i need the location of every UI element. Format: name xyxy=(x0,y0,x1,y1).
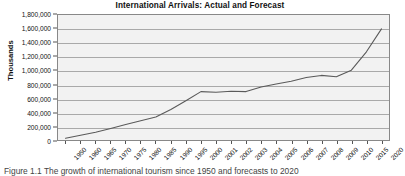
x-tick-mark xyxy=(80,141,81,144)
y-tick-label: 1,800,000 xyxy=(22,11,51,18)
x-tick-mark xyxy=(95,141,96,144)
x-tick-mark xyxy=(140,141,141,144)
y-tick-label: 1,200,000 xyxy=(22,53,51,60)
x-tick-label: 1950 xyxy=(72,146,87,161)
x-tick-mark xyxy=(322,141,323,144)
x-tick-label: 2005 xyxy=(284,146,299,161)
y-tick-label: 1,600,000 xyxy=(22,25,51,32)
x-tick-mark xyxy=(186,141,187,144)
y-axis-tick-labels: 1,800,0001,600,0001,400,0001,200,0001,00… xyxy=(0,0,57,174)
x-tick-label: 1965 xyxy=(102,146,117,161)
y-tick-label: 400,000 xyxy=(27,109,51,116)
x-tick-label: 2020 xyxy=(390,146,405,161)
x-tick-label: 1970 xyxy=(117,146,132,161)
y-tick-label: 800,000 xyxy=(27,81,51,88)
x-tick-mark xyxy=(276,141,277,144)
x-tick-label: 1975 xyxy=(132,146,147,161)
x-tick-mark xyxy=(201,141,202,144)
x-tick-mark xyxy=(352,141,353,144)
figure-caption: Figure 1.1 The growth of international t… xyxy=(4,166,396,176)
plot-area xyxy=(57,14,390,141)
x-tick-mark xyxy=(337,141,338,144)
x-tick-label: 1985 xyxy=(163,146,178,161)
x-tick-mark xyxy=(65,141,66,144)
x-tick-mark xyxy=(246,141,247,144)
x-tick-label: 2001 xyxy=(223,146,238,161)
x-tick-label: 2008 xyxy=(329,146,344,161)
x-tick-label: 2004 xyxy=(269,146,284,161)
y-tick-label: 1,400,000 xyxy=(22,39,51,46)
x-tick-label: 2003 xyxy=(254,146,269,161)
x-tick-mark xyxy=(216,141,217,144)
x-tick-mark xyxy=(125,141,126,144)
x-tick-label: 1995 xyxy=(193,146,208,161)
x-tick-mark xyxy=(367,141,368,144)
y-tick-label: 600,000 xyxy=(27,95,51,102)
x-tick-label: 2015 xyxy=(375,146,390,161)
y-tick-label: 200,000 xyxy=(27,123,51,130)
x-tick-mark xyxy=(292,141,293,144)
y-tick-label: 1,000,000 xyxy=(22,67,51,74)
x-tick-label: 2009 xyxy=(344,146,359,161)
series-polyline xyxy=(66,29,382,138)
x-tick-mark xyxy=(307,141,308,144)
x-tick-label: 2006 xyxy=(299,146,314,161)
x-tick-label: 2007 xyxy=(314,146,329,161)
x-tick-mark xyxy=(171,141,172,144)
x-tick-label: 1980 xyxy=(148,146,163,161)
x-tick-mark xyxy=(382,141,383,144)
x-tick-label: 1990 xyxy=(178,146,193,161)
x-tick-label: 1960 xyxy=(87,146,102,161)
x-tick-label: 2010 xyxy=(359,146,374,161)
x-tick-mark xyxy=(155,141,156,144)
x-tick-mark xyxy=(261,141,262,144)
x-tick-label: 2000 xyxy=(208,146,223,161)
chart-title: International Arrivals: Actual and Forec… xyxy=(0,1,400,10)
x-tick-mark xyxy=(110,141,111,144)
y-tick-label: 0 xyxy=(47,138,51,145)
x-tick-label: 2002 xyxy=(238,146,253,161)
x-tick-mark xyxy=(231,141,232,144)
series-line-chart xyxy=(58,15,389,140)
